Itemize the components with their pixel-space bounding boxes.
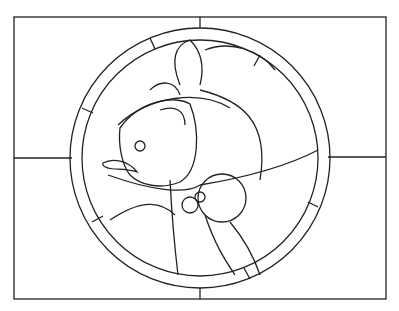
inner-ring	[82, 40, 318, 276]
outer-ring	[70, 28, 330, 288]
stained-glass-pattern	[0, 0, 399, 311]
